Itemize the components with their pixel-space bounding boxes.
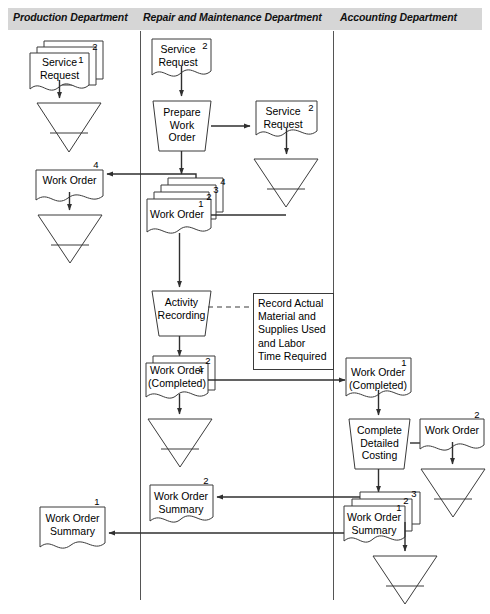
node-acct-file-summary: [373, 556, 437, 604]
label-rm-annotation: Record Actual Material and Supplies Used…: [258, 297, 336, 363]
copy-num-rm-work-order-summary-2: 2: [201, 476, 211, 486]
node-rm-work-order-summary-2: [150, 485, 213, 522]
node-rm-file-service-request: [254, 159, 318, 207]
flowchart-graphics: [0, 0, 490, 614]
node-prod-file-1: [37, 103, 101, 152]
node-rm-activity-recording: [152, 291, 211, 336]
copy-num-acct-work-order-summary-3: 3: [409, 489, 419, 499]
copy-num-prod-service-request-1: 1: [76, 55, 86, 65]
flowchart-canvas: Production Department Repair and Mainten…: [0, 0, 490, 614]
copy-num-acct-work-order-completed-1: 1: [399, 358, 409, 368]
copy-num-rm-work-order-4: 4: [218, 177, 228, 187]
copy-num-acct-work-order-2: 2: [472, 410, 482, 420]
copy-num-rm-work-order-completed-2: 2: [203, 356, 213, 366]
copy-num-prod-service-request-2: 2: [90, 42, 100, 52]
copy-num-prod-work-order-4: 4: [91, 160, 101, 170]
node-prod-file-2: [38, 215, 102, 263]
copy-num-rm-service-request-2: 2: [200, 41, 210, 51]
node-prod-work-order-summary-1: [40, 507, 105, 548]
copy-num-prod-work-order-summary-1: 1: [92, 497, 102, 507]
copy-num-rm-service-request-out: 2: [306, 103, 316, 113]
node-rm-file-completed: [148, 419, 212, 467]
node-rm-prepare-work-order: [153, 101, 211, 151]
node-acct-file-work-order: [421, 469, 485, 517]
node-acct-complete-detailed-costing: [349, 419, 410, 469]
